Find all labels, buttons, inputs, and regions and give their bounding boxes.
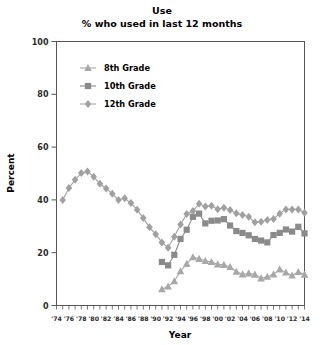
x-tick-label: '88 (138, 315, 149, 322)
x-tick-label: '80 (88, 315, 99, 322)
y-axis-label: Percent (6, 153, 16, 193)
data-point (227, 222, 233, 228)
data-point (177, 220, 184, 228)
data-point (283, 226, 289, 232)
data-point (233, 228, 239, 234)
data-point (59, 196, 66, 204)
data-point (177, 236, 183, 242)
legend-label: 8th Grade (104, 63, 150, 73)
data-point (270, 232, 276, 238)
chart-subtitle: % who used in last 12 months (82, 18, 243, 29)
x-tick-label: '06 (250, 315, 261, 322)
data-point (270, 215, 277, 223)
data-point (246, 232, 252, 238)
data-point (103, 185, 110, 193)
data-point (245, 213, 252, 221)
data-point (171, 277, 179, 284)
data-point (221, 216, 227, 222)
x-tick-label: '82 (101, 315, 112, 322)
data-point (165, 244, 172, 252)
x-tick-label: '78 (76, 315, 87, 322)
data-point (252, 236, 258, 242)
data-point (258, 237, 264, 243)
chart-container: Use % who used in last 12 months 0204060… (0, 0, 324, 345)
data-point (183, 210, 190, 218)
data-point (277, 230, 283, 236)
data-point (215, 217, 221, 223)
x-tick-label: '92 (163, 315, 174, 322)
legend-label: 10th Grade (104, 81, 156, 91)
data-point (245, 269, 253, 276)
data-point (301, 271, 309, 278)
data-point (171, 233, 178, 241)
data-point (196, 211, 202, 217)
data-point (258, 218, 265, 226)
data-point (239, 211, 246, 219)
y-tick-label: 40 (37, 196, 49, 205)
legend-label: 12th Grade (104, 99, 156, 109)
data-point (202, 220, 208, 226)
data-point (158, 285, 166, 292)
y-tick-label: 20 (37, 249, 49, 258)
x-tick-label: '98 (200, 315, 211, 322)
data-point (121, 194, 128, 202)
data-point (208, 218, 214, 224)
legend-marker-diamond-icon (85, 100, 92, 108)
x-tick-label: '00 (212, 315, 223, 322)
data-point (301, 209, 308, 217)
data-point (295, 205, 302, 213)
x-tick-label: '10 (274, 315, 285, 322)
data-point (301, 230, 307, 236)
data-point (165, 262, 171, 268)
data-series-group (59, 167, 308, 292)
data-point (202, 203, 209, 211)
x-axis: '74'76'78'80'82'84'86'88'90'92'94'96'98'… (51, 306, 310, 322)
data-point (252, 218, 259, 226)
data-point (208, 202, 215, 210)
data-point (171, 252, 177, 258)
data-point (270, 270, 278, 277)
y-tick-label: 0 (43, 302, 49, 311)
chart-title: Use (152, 5, 172, 16)
x-tick-label: '76 (64, 315, 75, 322)
data-point (264, 216, 271, 224)
x-tick-label: '74 (51, 315, 62, 322)
data-point (189, 253, 197, 260)
data-series-10th-grade (159, 211, 308, 269)
data-point (289, 228, 295, 234)
x-tick-label: '12 (287, 315, 298, 322)
data-point (283, 205, 290, 213)
y-tick-label: 80 (37, 90, 49, 99)
data-point (233, 268, 241, 275)
data-point (276, 265, 284, 272)
x-tick-label: '94 (175, 315, 186, 322)
data-point (233, 209, 240, 217)
line-chart: Use % who used in last 12 months 0204060… (0, 0, 324, 345)
data-point (295, 268, 303, 275)
data-point (289, 205, 296, 213)
data-point (227, 206, 234, 214)
x-tick-label: '14 (299, 315, 310, 322)
data-point (264, 239, 270, 245)
x-tick-label: '02 (225, 315, 236, 322)
x-tick-label: '86 (126, 315, 137, 322)
data-point (214, 205, 221, 213)
x-tick-label: '04 (237, 315, 248, 322)
data-point (159, 259, 165, 265)
data-point (295, 224, 301, 230)
data-series-8th-grade (158, 253, 308, 292)
chart-legend: 8th Grade10th Grade12th Grade (80, 63, 156, 109)
legend-marker-square-icon (85, 83, 91, 89)
x-axis-label: Year (168, 330, 192, 340)
x-tick-label: '08 (262, 315, 273, 322)
data-point (221, 204, 228, 212)
x-tick-label: '90 (150, 315, 161, 322)
data-point (184, 227, 190, 233)
y-tick-label: 100 (32, 38, 49, 47)
data-point (84, 167, 91, 175)
data-point (239, 230, 245, 236)
y-tick-label: 60 (37, 143, 49, 152)
y-axis: 020406080100 (32, 38, 57, 311)
x-tick-label: '84 (113, 315, 124, 322)
x-tick-label: '96 (188, 315, 199, 322)
